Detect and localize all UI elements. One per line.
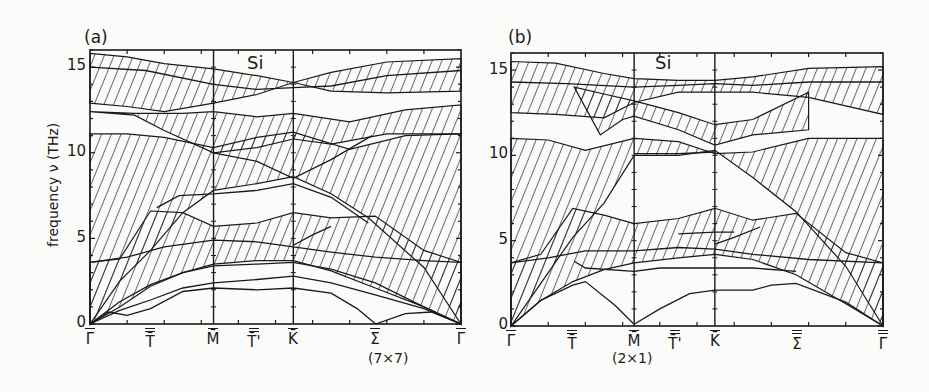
- bulk-band-region-bulk-optical-top: [90, 53, 461, 111]
- panel-b-xtick-gamma-start: Γ̄: [496, 330, 526, 350]
- panel-b-xtick-t-prime: T̄': [660, 330, 690, 353]
- panel-a-xtick-sigma: Σ̄: [360, 328, 390, 348]
- panel-a-xtick-k: K̄: [278, 328, 308, 348]
- panel-b-xtick-m: M̄: [619, 330, 649, 350]
- panel-b-material-label: Si: [655, 52, 671, 73]
- panel-a-xtick-m: M̄: [198, 328, 228, 348]
- panel-b-ytick-15: 15: [482, 60, 508, 78]
- panel-b-plot: [511, 53, 883, 326]
- panel-a-ytick-15: 15: [60, 56, 86, 74]
- bulk-band-region-bulk-mid-band: [574, 87, 808, 145]
- panel-a-material-label: Si: [247, 52, 263, 73]
- panel-a-xtick-t: T̄: [135, 328, 165, 351]
- panel-a-xtick-gamma-start: Γ̄: [75, 328, 105, 348]
- panel-b-ytick-5: 5: [482, 230, 508, 248]
- panel-a-xtick-t-prime: T̄': [239, 328, 269, 351]
- panel-a-ytick-10: 10: [60, 142, 86, 160]
- y-axis-label: frequency ν (THz): [45, 123, 61, 247]
- panel-b-xtick-t: T̄: [557, 330, 587, 353]
- panel-a-xtick-gamma-end: Γ̄: [446, 328, 476, 348]
- panel-a-reconstruction-label: (7×7): [368, 350, 408, 366]
- panel-a-label: (a): [84, 27, 108, 47]
- panel-a-ytick-5: 5: [60, 228, 86, 246]
- panel-a-plot: [90, 50, 461, 324]
- panel-b-reconstruction-label: (2×1): [612, 350, 652, 366]
- panel-b-ytick-10: 10: [482, 144, 508, 162]
- panel-b-xtick-sigma: Σ̄: [782, 330, 812, 353]
- bulk-band-region-bulk-optical-top: [511, 62, 883, 118]
- panel-b-label: (b): [508, 27, 532, 47]
- panel-b-xtick-gamma-end: Γ̄: [868, 330, 898, 353]
- panel-b-xtick-k: K̄: [700, 330, 730, 350]
